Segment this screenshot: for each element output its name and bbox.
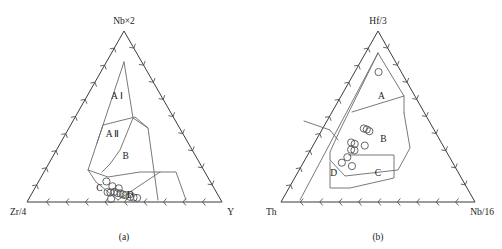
field-label: D [127, 190, 134, 200]
panel-caption-b: (b) [372, 232, 383, 243]
data-point-marker [375, 68, 382, 75]
field-label: D [330, 168, 337, 178]
field-label: C [96, 183, 102, 193]
figure-canvas: Nb×2 Zr/4 Y A ⅠA ⅡBCD (a) Hf/3 Th Nb/ [0, 0, 502, 249]
field-boundary-b-a-right [378, 53, 404, 113]
field-boundary-b-c [102, 118, 133, 172]
field-boundary-b-left-long [300, 53, 378, 200]
field-label: B [380, 134, 386, 144]
right-corner-label-a: Y [227, 207, 234, 217]
ternary-triangle-a [27, 31, 222, 202]
panel-a: Nb×2 Zr/4 Y A ⅠA ⅡBCD (a) [10, 16, 234, 243]
apex-label-a: Nb×2 [113, 16, 135, 26]
data-point-marker [361, 142, 368, 149]
data-point-marker [344, 154, 351, 161]
left-corner-label-a: Zr/4 [10, 207, 27, 217]
field-boundaries-a [88, 62, 186, 200]
field-boundary-c-d [88, 170, 160, 177]
axis-ticks-a [33, 44, 214, 205]
ternary-diagram-figure: Nb×2 Zr/4 Y A ⅠA ⅡBCD (a) Hf/3 Th Nb/ [0, 0, 502, 249]
field-label: C [375, 168, 381, 178]
data-points-a [103, 178, 141, 203]
right-corner-label-b: Nb/16 [470, 207, 494, 217]
field-boundaries-b [300, 53, 410, 200]
left-corner-label-b: Th [266, 207, 277, 217]
field-label: A [378, 91, 385, 101]
apex-label-b: Hf/3 [369, 16, 387, 26]
data-points-b [338, 68, 382, 169]
data-point-marker [103, 178, 110, 185]
field-label: A Ⅱ [106, 129, 120, 139]
data-point-marker [338, 159, 345, 166]
field-boundary-a2-b [124, 62, 158, 200]
panel-b: Hf/3 Th Nb/16 ABCD (b) [266, 16, 494, 243]
data-point-marker [348, 162, 355, 169]
panel-caption-a: (a) [119, 232, 130, 243]
field-label: A Ⅰ [111, 91, 123, 101]
field-label: B [123, 151, 129, 161]
data-point-marker [366, 128, 373, 135]
